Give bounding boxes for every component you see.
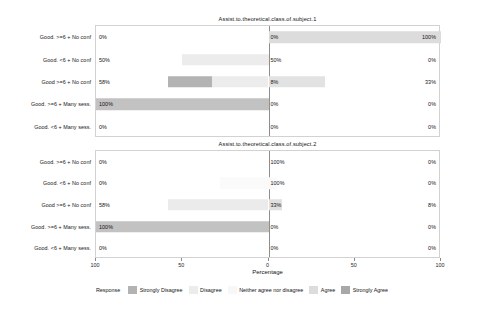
legend-swatch-icon [341, 286, 350, 294]
legend-item[interactable]: Agree [309, 286, 335, 294]
row-left-percentage: 0% [99, 245, 107, 251]
row-category-label: Good. <6 + No conf [43, 180, 91, 186]
x-axis-tick [95, 258, 96, 261]
row-category-label: Good. >=6 + No conf [40, 159, 91, 165]
row-category-label: Good >=6 + No conf [41, 79, 91, 85]
row-right-percentage: 0% [428, 57, 436, 63]
row-right-percentage: 0% [428, 180, 436, 186]
legend-label: Strongly Agree [353, 287, 388, 293]
panel-title-1: Assist.to.theoretical.class.of.subject.1 [95, 16, 440, 22]
row-left-percentage: 58% [99, 202, 110, 208]
stacked-bar [96, 156, 439, 168]
legend-label: Agree [321, 287, 335, 293]
row-center-percentage: 100% [271, 159, 285, 165]
row-left-percentage: 0% [99, 124, 107, 130]
row-center-percentage: 0% [271, 224, 279, 230]
bar-segment [96, 221, 269, 233]
row-right-percentage: 0% [428, 245, 436, 251]
legend-label: Neither agree nor disagree [239, 287, 303, 293]
x-axis-tick-label: 50 [351, 262, 357, 268]
bar-segment [182, 54, 268, 66]
legend-swatch-icon [309, 286, 318, 294]
row-left-percentage: 0% [99, 159, 107, 165]
legend-label: Disagree [200, 287, 222, 293]
row-center-percentage: 100% [271, 180, 285, 186]
stacked-bar [96, 54, 439, 66]
stacked-bar [96, 99, 439, 111]
legend-swatch-icon [128, 286, 137, 294]
legend-title: Response [96, 287, 120, 293]
row-left-percentage: 0% [99, 180, 107, 186]
legend-label: Strongly Disagree [140, 287, 183, 293]
row-center-percentage: 50% [271, 57, 282, 63]
row-left-percentage: 50% [99, 57, 110, 63]
row-right-percentage: 33% [425, 79, 436, 85]
stacked-bar [96, 178, 439, 190]
x-axis-tick [268, 258, 269, 261]
row-right-percentage: 8% [428, 202, 436, 208]
row-center-percentage: 8% [271, 79, 279, 85]
row-center-percentage: 0% [271, 101, 279, 107]
stacked-bar [96, 31, 439, 43]
bar-segment [269, 31, 442, 43]
row-right-percentage: 0% [428, 159, 436, 165]
likert-row: Good. <6 + Many sess.0%0%0% [96, 116, 439, 138]
row-category-label: Good. >=6 + Many sess. [31, 224, 91, 230]
bar-segment [96, 99, 269, 111]
legend-swatch-icon [228, 286, 237, 294]
bar-segment [168, 76, 211, 88]
likert-row: Good. >=6 + No conf0%0%100% [96, 26, 439, 48]
x-axis-tick [354, 258, 355, 261]
x-axis-tick [181, 258, 182, 261]
stacked-bar [96, 121, 439, 133]
legend-swatch-icon [189, 286, 198, 294]
row-category-label: Good. <6 + Many sess. [34, 124, 91, 130]
likert-row: Good. <6 + Many sess.0%0%0% [96, 237, 439, 259]
x-axis-tick-label: 100 [91, 262, 100, 268]
row-left-percentage: 100% [99, 224, 113, 230]
stacked-bar [96, 199, 439, 211]
row-category-label: Good. <6 + Many sess. [34, 245, 91, 251]
row-center-percentage: 0% [271, 34, 279, 40]
panel-subject-1: Good. >=6 + No conf0%0%100%Good. <6 + No… [95, 25, 440, 137]
x-axis-tick-label: 50 [178, 262, 184, 268]
bar-segment [168, 199, 268, 211]
bar-segment [220, 178, 277, 190]
row-category-label: Good. <6 + No conf [43, 57, 91, 63]
panel-title-2: Assist.to.theoretical.class.of.subject.2 [95, 141, 440, 147]
legend-item[interactable]: Neither agree nor disagree [228, 286, 304, 294]
row-center-percentage: 33% [271, 202, 282, 208]
row-category-label: Good. >=6 + Many sess. [31, 101, 91, 107]
likert-row: Good. <6 + No conf0%100%0% [96, 173, 439, 195]
panel-subject-2: Good. >=6 + No conf0%100%0%Good. <6 + No… [95, 150, 440, 258]
row-right-percentage: 0% [428, 124, 436, 130]
likert-row: Good. >=6 + No conf0%100%0% [96, 151, 439, 173]
stacked-bar [96, 242, 439, 254]
likert-row: Good >=6 + No conf58%33%8% [96, 194, 439, 216]
likert-row: Good. >=6 + Many sess.100%0%0% [96, 216, 439, 238]
row-left-percentage: 58% [99, 79, 110, 85]
x-axis-tick-label: 0 [266, 262, 269, 268]
likert-row: Good. >=6 + Many sess.100%0%0% [96, 93, 439, 115]
bar-segment [212, 76, 269, 88]
x-axis-tick [440, 258, 441, 261]
row-center-percentage: 0% [271, 245, 279, 251]
likert-row: Good. <6 + No conf50%50%0% [96, 48, 439, 70]
row-left-percentage: 100% [99, 101, 113, 107]
legend-item[interactable]: Disagree [189, 286, 222, 294]
x-axis-tick-label: 100 [436, 262, 445, 268]
stacked-bar [96, 221, 439, 233]
legend-item[interactable]: Strongly Disagree [128, 286, 182, 294]
legend-item[interactable]: Strongly Agree [341, 286, 388, 294]
x-axis: Percentage 10050050100 [95, 258, 440, 280]
row-left-percentage: 0% [99, 34, 107, 40]
stacked-bar [96, 76, 439, 88]
row-category-label: Good. >=6 + No conf [40, 34, 91, 40]
row-center-percentage: 0% [271, 124, 279, 130]
likert-row: Good >=6 + No conf58%8%33% [96, 71, 439, 93]
row-right-percentage: 100% [422, 34, 436, 40]
row-right-percentage: 0% [428, 101, 436, 107]
likert-chart: Assist.to.theoretical.class.of.subject.1… [0, 0, 484, 313]
x-axis-title: Percentage [95, 269, 440, 275]
row-right-percentage: 0% [428, 224, 436, 230]
